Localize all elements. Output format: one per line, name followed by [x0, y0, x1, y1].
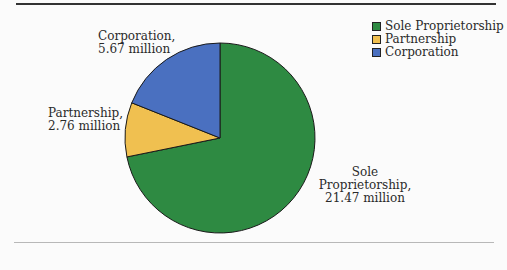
corporation-slice-label: Corporation, 5.67 million — [98, 30, 170, 56]
corporation-swatch-icon — [372, 48, 381, 57]
bottom-rule — [14, 242, 494, 243]
sole-swatch-icon — [372, 22, 381, 31]
legend-label: Corporation — [385, 46, 459, 59]
sole-slice-label: Sole Proprietorship, 21.47 million — [315, 166, 415, 205]
partnership-slice-label: Partnership, 2.76 million — [48, 107, 118, 133]
partnership-label-value: 2.76 million — [48, 120, 118, 133]
legend-item-corporation: Corporation — [372, 46, 504, 59]
corporation-label-value: 5.67 million — [98, 43, 170, 56]
partnership-swatch-icon — [372, 35, 381, 44]
legend: Sole Proprietorship Partnership Corporat… — [372, 20, 504, 59]
sole-label-value: 21.47 million — [315, 192, 415, 205]
